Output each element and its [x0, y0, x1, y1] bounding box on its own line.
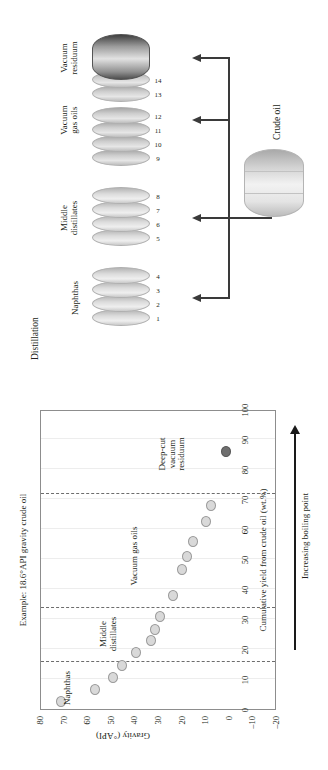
figure-root: Example: 18.6°API gravity crude oil Naph…: [0, 0, 328, 770]
x-tick-label: 0: [240, 708, 250, 712]
distillation-cut-disk: [92, 267, 150, 284]
cut-number: 6: [156, 221, 160, 229]
fraction-label: Vacuumgas oils: [60, 105, 79, 135]
data-point: [182, 551, 192, 562]
cut-number: 7: [156, 207, 160, 215]
y-tick-label: 30: [153, 716, 163, 725]
boiling-point-arrow-line: [294, 432, 296, 650]
x-tick-label: 60: [240, 526, 250, 535]
cut-number: 14: [155, 77, 162, 85]
feed-riser: [201, 217, 230, 219]
distillation-cut-disk: [92, 187, 150, 204]
y-tick-label: 40: [129, 716, 139, 725]
x-tick-label: 100: [240, 404, 250, 417]
data-point: [177, 565, 187, 576]
fraction-label: Naphthas: [71, 281, 81, 315]
rotated-figure-canvas: Example: 18.6°API gravity crude oil Naph…: [0, 0, 328, 770]
boiling-point-annotation: Increasing boiling point: [288, 410, 314, 650]
cut-number: 4: [156, 273, 160, 281]
vacuum-residuum-drum: [92, 34, 150, 80]
boiling-point-label: Increasing boiling point: [300, 422, 310, 650]
x-tick-label: 10: [240, 676, 250, 685]
diagram-title: Distillation: [30, 317, 40, 360]
x-tick-label: 70: [240, 496, 250, 505]
group-divider: [41, 608, 275, 609]
fraction-label: Middledistillates: [60, 201, 79, 236]
cut-number: 2: [156, 301, 160, 309]
data-point: [108, 673, 118, 684]
x-tick-label: 40: [240, 586, 250, 595]
group-annotation: Naphthas: [63, 671, 73, 705]
group-divider: [41, 662, 275, 663]
data-point: [150, 625, 160, 636]
crude-oil-drum: [244, 149, 304, 217]
data-point: [117, 661, 127, 672]
data-point: [201, 517, 211, 528]
data-point: [206, 500, 216, 511]
group-annotation: Middledistillates: [99, 617, 118, 652]
y-tick-label: 60: [82, 716, 92, 725]
cut-number: 13: [155, 91, 162, 99]
x-tick-label: 30: [240, 616, 250, 625]
group-divider: [41, 494, 275, 495]
cut-number: 8: [156, 193, 160, 201]
feed-manifold: [228, 57, 230, 299]
cut-number: 10: [155, 141, 162, 149]
arrow-up-icon: [192, 295, 201, 303]
x-tick-label: 90: [240, 436, 250, 445]
y-tick-label: 70: [59, 716, 69, 725]
scatter-chart: Example: 18.6°API gravity crude oil Naph…: [0, 372, 328, 770]
data-point: [168, 590, 178, 601]
feed-riser: [201, 297, 230, 299]
distillation-cut-disk: [92, 107, 150, 124]
drum-seam: [245, 193, 303, 194]
data-point: [188, 536, 198, 547]
cut-number: 1: [156, 315, 160, 323]
cut-number: 11: [155, 127, 162, 135]
fraction-label: Vacuumresiduum: [60, 41, 79, 75]
y-tick-label: 0: [224, 716, 234, 720]
arrow-up-icon: [192, 55, 201, 63]
data-point: [146, 635, 156, 646]
x-tick-label: 80: [240, 466, 250, 475]
distillation-diagram: Distillation 1234Naphthas5678Middledisti…: [0, 0, 328, 366]
crude-oil-label: Crude oil: [272, 104, 282, 140]
chart-title: Example: 18.6°API gravity crude oil: [18, 410, 28, 710]
y-tick-label: 20: [177, 716, 187, 725]
data-point: [90, 685, 100, 696]
arrow-up-icon: [192, 215, 201, 223]
data-point: [131, 647, 141, 658]
y-tick-label: 50: [106, 716, 116, 725]
x-tick-label: 20: [240, 646, 250, 655]
y-tick-label: –20: [271, 716, 281, 729]
arrow-right-icon: [290, 425, 300, 434]
x-axis-title: Cumulative yield from crude oil (wt.%): [258, 410, 268, 710]
y-tick-label: –10: [247, 716, 257, 729]
data-point: [221, 446, 231, 457]
cut-number: 5: [156, 235, 160, 243]
feed-riser: [201, 57, 230, 59]
group-annotation: Vacuum gas oils: [130, 527, 140, 586]
crude-feed-line: [228, 217, 272, 219]
cut-number: 9: [156, 155, 160, 163]
y-tick-label: 10: [200, 716, 210, 725]
x-tick-label: 50: [240, 556, 250, 565]
cut-number: 12: [155, 113, 162, 121]
drum-seam: [245, 171, 303, 172]
feed-riser: [201, 119, 230, 121]
cut-number: 3: [156, 287, 160, 295]
arrow-up-icon: [192, 117, 201, 125]
y-tick-label: 80: [35, 716, 45, 725]
y-axis-title: Gravity (°API): [5, 731, 241, 741]
group-annotation: Deep-cutvacuumresiduum: [158, 437, 187, 471]
data-point: [155, 611, 165, 622]
